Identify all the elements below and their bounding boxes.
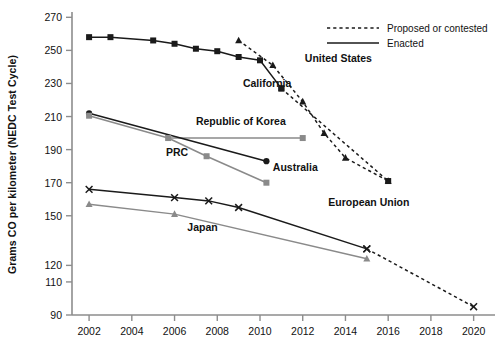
- y-axis-title: Grams CO per kilometer (NEDC Test Cycle): [6, 55, 18, 274]
- data-point: [86, 200, 93, 207]
- y-tick-label: 170: [44, 177, 62, 189]
- series-label: Republic of Korea: [196, 115, 286, 127]
- series-label: European Union: [328, 196, 409, 208]
- data-point: [263, 158, 269, 164]
- y-tick-label: 250: [44, 44, 62, 56]
- data-point: [214, 48, 220, 54]
- legend-label: Enacted: [387, 38, 424, 49]
- series-united-states: United States: [86, 34, 391, 184]
- chart-canvas: 9011012015017019021023025027020022004200…: [0, 0, 503, 357]
- series-label: United States: [305, 52, 372, 64]
- data-point: [165, 135, 171, 141]
- series-republic-of-korea: Republic of Korea: [168, 115, 306, 141]
- series-label: Japan: [187, 221, 217, 233]
- y-axis-ticks: 90110120150170190210230250270: [44, 11, 72, 321]
- legend-label: Proposed or contested: [387, 23, 488, 34]
- data-point: [107, 34, 113, 40]
- x-tick-label: 2016: [377, 325, 401, 337]
- y-tick-label: 230: [44, 77, 62, 89]
- y-tick-label: 90: [50, 309, 62, 321]
- data-point: [235, 37, 242, 44]
- data-point: [321, 129, 328, 136]
- y-tick-label: 110: [45, 276, 62, 288]
- data-point: [86, 113, 92, 119]
- x-tick-label: 2010: [248, 325, 272, 337]
- data-point: [86, 34, 92, 40]
- y-tick-label: 190: [44, 144, 62, 156]
- x-tick-label: 2004: [120, 325, 144, 337]
- x-tick-label: 2014: [334, 325, 358, 337]
- x-tick-label: 2020: [462, 325, 486, 337]
- proposed-line: [367, 249, 474, 307]
- series-european-union: European Union: [86, 186, 477, 310]
- data-point: [263, 180, 269, 186]
- data-point: [299, 98, 306, 105]
- data-point: [204, 153, 210, 159]
- data-point: [300, 135, 306, 141]
- x-tick-label: 2008: [206, 325, 230, 337]
- emissions-chart: 9011012015017019021023025027020022004200…: [0, 0, 503, 357]
- data-point: [236, 54, 242, 60]
- data-point: [172, 41, 178, 47]
- y-tick-label: 120: [44, 259, 62, 271]
- enacted-line: [89, 204, 367, 259]
- series-label: Australia: [273, 161, 318, 173]
- x-tick-label: 2018: [419, 325, 443, 337]
- series-japan: Japan: [86, 200, 371, 261]
- data-point: [150, 37, 156, 43]
- y-tick-label: 210: [44, 111, 62, 123]
- data-point: [269, 61, 276, 68]
- x-tick-label: 2012: [291, 325, 315, 337]
- data-point: [193, 46, 199, 52]
- y-tick-label: 150: [44, 210, 62, 222]
- x-tick-label: 2006: [163, 325, 187, 337]
- y-tick-label: 270: [44, 11, 62, 23]
- series-label: California: [243, 77, 292, 89]
- chart-legend: Proposed or contestedEnacted: [327, 23, 488, 49]
- data-point: [470, 303, 477, 310]
- x-axis-ticks: 2002200420062008201020122014201620182020: [77, 315, 485, 337]
- series-label: PRC: [166, 146, 189, 158]
- data-point: [257, 57, 263, 63]
- enacted-line: [89, 189, 367, 249]
- x-tick-label: 2002: [77, 325, 101, 337]
